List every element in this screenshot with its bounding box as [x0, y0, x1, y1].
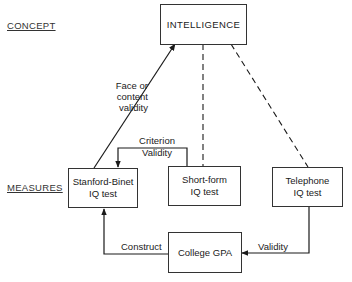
validity-label: Validity — [258, 241, 288, 252]
face-validity-line2: content — [100, 91, 148, 102]
face-validity-label: Face or content validity — [100, 80, 148, 113]
intelligence-node: INTELLIGENCE — [160, 4, 247, 45]
short-form-node: Short-form IQ test — [168, 166, 241, 206]
intelligence-label: INTELLIGENCE — [167, 19, 240, 31]
criterion-validity-label: Criterion Validity — [134, 135, 180, 158]
face-validity-line1: Face or — [100, 80, 148, 91]
face-validity-line3: validity — [100, 102, 148, 113]
concept-section-label: CONCEPT — [7, 20, 56, 31]
criterion-line2: Validity — [134, 147, 180, 158]
stanford-binet-line1: Stanford-Binet — [73, 176, 134, 188]
stanford-binet-node: Stanford-Binet IQ test — [68, 168, 138, 208]
stanford-binet-line2: IQ test — [73, 188, 134, 200]
telephone-line2: IQ test — [286, 187, 330, 199]
intelligence-telephone-dashed — [231, 44, 308, 167]
short-form-line1: Short-form — [182, 174, 227, 186]
measures-section-label: MEASURES — [7, 182, 63, 193]
criterion-line1: Criterion — [134, 135, 180, 146]
construct-label: Construct — [121, 241, 162, 252]
telephone-node: Telephone IQ test — [272, 167, 343, 207]
college-gpa-label: College GPA — [178, 247, 232, 259]
short-form-line2: IQ test — [182, 186, 227, 198]
college-gpa-node: College GPA — [168, 232, 242, 273]
telephone-line1: Telephone — [286, 175, 330, 187]
